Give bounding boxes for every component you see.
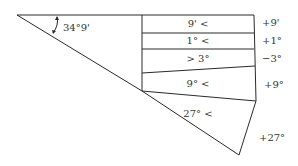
row-inside-label: 9' < [188, 18, 209, 29]
wedge-lower-edge [142, 91, 239, 155]
row-outside-label: +9' [262, 17, 280, 28]
row-inside-label: 9° < [187, 78, 210, 89]
row-divider-4 [142, 91, 256, 101]
angle-arrow-icon [52, 16, 59, 34]
row-outside-label: +27° [259, 132, 285, 143]
table-right-edge [254, 15, 256, 101]
row-outside-label: −3° [262, 53, 282, 64]
angle-label: 34°9' [63, 22, 90, 33]
row-outside-label: +1° [262, 35, 282, 46]
row-inside-label: > 3° [187, 53, 210, 64]
row-divider-3 [142, 66, 255, 73]
wedge-right-edge [239, 101, 256, 155]
row-outside-label: +9° [264, 79, 284, 90]
angle-diagram: 34°9' 9' < 1° < > 3° 9° < 27° < +9' +1° … [0, 0, 298, 166]
row-inside-label: 1° < [187, 35, 210, 46]
row-inside-label: 27° < [183, 108, 212, 119]
